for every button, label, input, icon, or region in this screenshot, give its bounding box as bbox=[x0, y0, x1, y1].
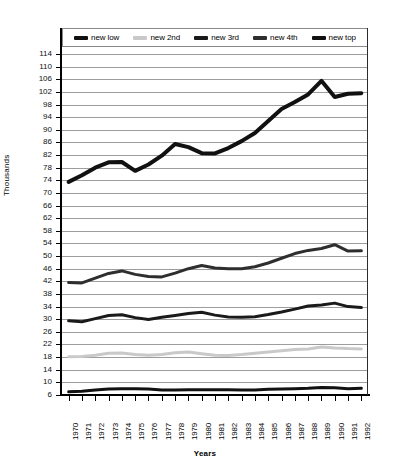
legend-label: new 3rd bbox=[211, 33, 239, 42]
x-tick-mark bbox=[255, 396, 256, 401]
y-tick-mark bbox=[56, 332, 60, 333]
series-line-new-top bbox=[69, 81, 362, 182]
x-tick-label: 1972 bbox=[98, 423, 106, 440]
x-tick-label: 1980 bbox=[205, 423, 213, 440]
y-tick-mark bbox=[56, 79, 60, 80]
x-tick-mark bbox=[242, 396, 243, 401]
y-tick-label: 14 bbox=[22, 366, 52, 374]
x-axis-title: Years bbox=[0, 449, 410, 458]
y-tick-mark bbox=[56, 67, 60, 68]
series-line-new-2nd bbox=[69, 347, 362, 357]
series-line-new-low bbox=[69, 387, 362, 391]
y-tick-label: 34 bbox=[22, 303, 52, 311]
y-tick-label: 78 bbox=[22, 164, 52, 172]
x-tick-mark bbox=[295, 396, 296, 401]
y-tick-label: 62 bbox=[22, 214, 52, 222]
series-lines bbox=[62, 54, 368, 395]
y-tick-label: 114 bbox=[22, 50, 52, 58]
y-tick-mark bbox=[56, 382, 60, 383]
legend-item-new-4th: new 4th bbox=[253, 33, 297, 42]
y-tick-mark bbox=[56, 130, 60, 131]
y-tick-mark bbox=[56, 105, 60, 106]
x-tick-label: 1992 bbox=[364, 423, 372, 440]
x-tick-label: 1975 bbox=[138, 423, 146, 440]
x-tick-label: 1973 bbox=[112, 423, 120, 440]
legend-swatch-icon bbox=[74, 36, 88, 40]
y-tick-mark bbox=[56, 180, 60, 181]
x-tick-mark bbox=[162, 396, 163, 401]
legend-label: new top bbox=[329, 33, 356, 42]
legend-item-new-3rd: new 3rd bbox=[194, 33, 239, 42]
legend-label: new low bbox=[91, 33, 119, 42]
y-tick-mark bbox=[56, 395, 60, 396]
x-tick-mark bbox=[95, 396, 96, 401]
y-tick-label: 90 bbox=[22, 126, 52, 134]
y-tick-mark bbox=[56, 117, 60, 118]
y-tick-label: 82 bbox=[22, 151, 52, 159]
y-axis-line bbox=[60, 28, 62, 395]
y-tick-mark bbox=[56, 168, 60, 169]
y-tick-label: 38 bbox=[22, 290, 52, 298]
y-tick-mark bbox=[56, 269, 60, 270]
y-tick-label: 110 bbox=[22, 63, 52, 71]
legend-swatch-icon bbox=[253, 36, 267, 40]
y-tick-mark bbox=[56, 231, 60, 232]
x-tick-mark bbox=[175, 396, 176, 401]
plot-area bbox=[62, 54, 368, 395]
x-tick-mark bbox=[215, 396, 216, 401]
x-tick-label: 1978 bbox=[178, 423, 186, 440]
legend-item-new-2nd: new 2nd bbox=[133, 33, 180, 42]
legend-swatch-icon bbox=[312, 36, 326, 40]
x-tick-mark bbox=[188, 396, 189, 401]
x-tick-label: 1991 bbox=[351, 423, 359, 440]
y-tick-label: 74 bbox=[22, 176, 52, 184]
y-tick-label: 70 bbox=[22, 189, 52, 197]
y-tick-mark bbox=[56, 54, 60, 55]
x-tick-mark bbox=[148, 396, 149, 401]
x-tick-label: 1987 bbox=[298, 423, 306, 440]
x-tick-label: 1971 bbox=[85, 423, 93, 440]
x-tick-mark bbox=[122, 396, 123, 401]
y-tick-label: 66 bbox=[22, 202, 52, 210]
x-tick-mark bbox=[348, 396, 349, 401]
y-tick-mark bbox=[56, 218, 60, 219]
y-tick-label: 58 bbox=[22, 227, 52, 235]
series-line-new-3rd bbox=[69, 303, 362, 322]
series-line-new-4th bbox=[69, 245, 362, 283]
y-tick-label: 6 bbox=[22, 391, 52, 399]
y-tick-mark bbox=[56, 357, 60, 358]
y-tick-mark bbox=[56, 243, 60, 244]
chart-legend: new lownew 2ndnew 3rdnew 4thnew top bbox=[62, 28, 368, 47]
legend-swatch-icon bbox=[194, 36, 208, 40]
y-tick-mark bbox=[56, 344, 60, 345]
x-tick-label: 1984 bbox=[258, 423, 266, 440]
x-tick-mark bbox=[135, 396, 136, 401]
x-tick-mark bbox=[202, 396, 203, 401]
x-tick-mark bbox=[361, 396, 362, 401]
x-tick-label: 1985 bbox=[271, 423, 279, 440]
x-tick-label: 1970 bbox=[72, 423, 80, 440]
x-tick-mark bbox=[308, 396, 309, 401]
legend-item-new-top: new top bbox=[312, 33, 356, 42]
x-tick-mark bbox=[282, 396, 283, 401]
x-tick-mark bbox=[268, 396, 269, 401]
line-chart: new lownew 2ndnew 3rdnew 4thnew top 1141… bbox=[0, 0, 410, 468]
x-tick-mark bbox=[321, 396, 322, 401]
legend-label: new 4th bbox=[270, 33, 297, 42]
y-tick-label: 102 bbox=[22, 88, 52, 96]
x-tick-label: 1983 bbox=[245, 423, 253, 440]
y-tick-mark bbox=[56, 319, 60, 320]
legend-label: new 2nd bbox=[150, 33, 180, 42]
y-tick-label: 106 bbox=[22, 75, 52, 83]
y-tick-label: 18 bbox=[22, 353, 52, 361]
x-tick-mark bbox=[69, 396, 70, 401]
y-tick-label: 94 bbox=[22, 113, 52, 121]
x-tick-mark bbox=[82, 396, 83, 401]
y-tick-label: 30 bbox=[22, 315, 52, 323]
y-tick-mark bbox=[56, 307, 60, 308]
y-tick-label: 50 bbox=[22, 252, 52, 260]
y-tick-label: 10 bbox=[22, 378, 52, 386]
x-tick-label: 1976 bbox=[151, 423, 159, 440]
x-tick-label: 1986 bbox=[285, 423, 293, 440]
x-tick-label: 1979 bbox=[191, 423, 199, 440]
